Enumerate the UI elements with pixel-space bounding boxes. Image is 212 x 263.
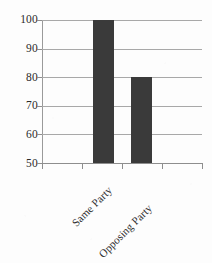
- bar-same-party: [93, 20, 114, 163]
- y-tick-label-80: 80: [4, 72, 38, 84]
- y-tick-label-60: 60: [4, 129, 38, 141]
- x-tick-mark-1: [82, 164, 83, 169]
- gridline-70: [42, 106, 202, 107]
- bar-chart: 100 90 80 70 60 50 Same Party Opposing P…: [0, 0, 212, 263]
- gridline-90: [42, 49, 202, 50]
- y-tick-label-90: 90: [4, 43, 38, 55]
- x-tick-mark-2: [122, 164, 123, 169]
- y-tick-label-50: 50: [4, 158, 38, 170]
- gridline-80: [42, 77, 202, 78]
- x-tick-mark-4: [202, 164, 203, 169]
- gridline-60: [42, 134, 202, 135]
- plot-area: [42, 20, 202, 163]
- x-tick-mark-0: [42, 164, 43, 169]
- y-axis-tick-labels: 100 90 80 70 60 50: [0, 0, 38, 263]
- y-tick-label-100: 100: [4, 14, 38, 26]
- gridline-100: [42, 20, 202, 21]
- x-tick-mark-3: [162, 164, 163, 169]
- y-tick-label-70: 70: [4, 100, 38, 112]
- bar-opposing-party: [131, 77, 152, 163]
